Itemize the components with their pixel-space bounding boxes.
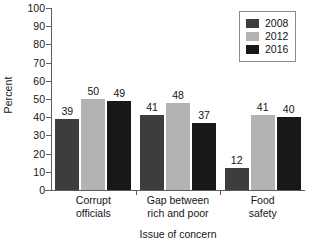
- x-axis-category-label-line: safety: [220, 207, 305, 220]
- x-axis-category-label-line: Corrupt: [51, 194, 136, 207]
- y-axis-tick-label: 30: [16, 130, 45, 140]
- x-axis-title: Issue of concern: [51, 228, 305, 240]
- x-axis-category-label-line: officials: [51, 207, 136, 220]
- bar: [81, 99, 105, 190]
- bar-value-label: 41: [134, 102, 170, 113]
- x-axis-category-label: Foodsafety: [220, 194, 305, 220]
- legend-swatch-icon: [246, 19, 259, 28]
- bar: [55, 119, 79, 190]
- y-axis-tick-label: 70: [16, 58, 45, 68]
- y-axis-tick-label: 100: [16, 3, 45, 13]
- y-axis-tick-label: 0: [16, 185, 45, 195]
- x-axis-category-labels: CorruptofficialsGap betweenrich and poor…: [51, 194, 305, 226]
- bar-value-label: 49: [101, 88, 137, 99]
- y-axis-tick-label: 60: [16, 76, 45, 86]
- x-axis-category-label: Corruptofficials: [51, 194, 136, 220]
- x-axis-category-label: Gap betweenrich and poor: [136, 194, 221, 220]
- y-axis-tick-labels: 0102030405060708090100: [16, 0, 45, 190]
- y-axis-tick-label: 50: [16, 94, 45, 104]
- bar: [225, 168, 249, 190]
- y-axis-tick-label: 10: [16, 167, 45, 177]
- legend-entry: 2008: [246, 17, 288, 30]
- x-axis-category-label-line: Gap between: [136, 194, 221, 207]
- bar-value-label: 12: [219, 155, 255, 166]
- bar-value-label: 40: [271, 104, 307, 115]
- legend: 200820122016: [239, 11, 296, 62]
- bar: [251, 115, 275, 190]
- x-axis-line: [45, 190, 305, 191]
- bar-value-label: 37: [186, 110, 222, 121]
- y-axis-tick-label: 40: [16, 112, 45, 122]
- y-axis-tick-label: 20: [16, 149, 45, 159]
- bar: [277, 117, 301, 190]
- legend-entry: 2012: [246, 30, 288, 43]
- legend-label: 2008: [265, 18, 288, 29]
- bar: [140, 115, 164, 190]
- legend-label: 2012: [265, 31, 288, 42]
- legend-label: 2016: [265, 44, 288, 55]
- bar-value-label: 48: [160, 90, 196, 101]
- x-axis-category-label-line: rich and poor: [136, 207, 221, 220]
- bar-chart: Percent 0102030405060708090100 395049414…: [0, 0, 313, 249]
- legend-swatch-icon: [246, 32, 259, 41]
- legend-entry: 2016: [246, 43, 288, 56]
- y-axis-tick-label: 80: [16, 39, 45, 49]
- y-axis-tick-label: 90: [16, 21, 45, 31]
- bar-value-label: 39: [49, 106, 85, 117]
- y-axis-title-text: Percent: [2, 77, 14, 114]
- y-axis-title: Percent: [0, 0, 16, 190]
- x-axis-category-label-line: Food: [220, 194, 305, 207]
- legend-swatch-icon: [246, 45, 259, 54]
- y-axis-line: [51, 8, 52, 190]
- bar: [192, 123, 216, 190]
- bar: [107, 101, 131, 190]
